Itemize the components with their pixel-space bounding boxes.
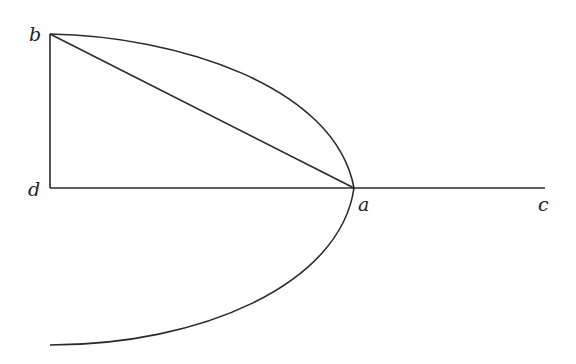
segment-ba (50, 34, 354, 188)
label-d: d (28, 180, 40, 199)
diagram-svg (0, 0, 576, 364)
lower-arc (50, 188, 354, 345)
diagram-canvas: b d a c (0, 0, 576, 364)
label-c: c (538, 195, 549, 214)
label-b: b (29, 25, 41, 44)
label-a: a (358, 195, 369, 214)
